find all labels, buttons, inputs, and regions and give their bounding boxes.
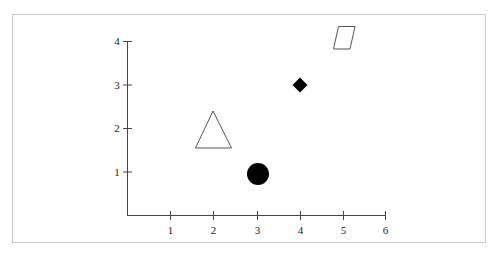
x-tick-label: 4 (298, 224, 304, 236)
y-tick-label: 3 (114, 79, 120, 91)
circle-marker (247, 163, 269, 185)
x-tick-label: 3 (255, 224, 261, 236)
x-axis (128, 211, 386, 220)
parallelogram-marker (334, 27, 356, 50)
y-tick-label: 4 (114, 35, 120, 47)
x-tick-label: 5 (341, 224, 347, 236)
diamond-marker (293, 78, 308, 93)
y-tick-label: 1 (114, 166, 120, 178)
x-tick-label: 1 (168, 224, 174, 236)
scatter-plot: 4 3 2 1 1 2 3 4 5 6 (0, 0, 496, 254)
x-tick-label: 6 (383, 224, 389, 236)
y-tick-label: 2 (114, 122, 120, 134)
y-axis (123, 41, 132, 216)
triangle-marker (196, 111, 232, 148)
x-tick-label: 2 (211, 224, 217, 236)
